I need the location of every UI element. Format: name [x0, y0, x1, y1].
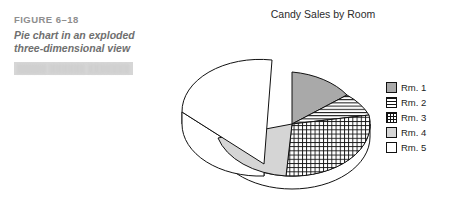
legend-item-rm-3[interactable]: Rm. 3: [386, 110, 426, 125]
chart-legend: Rm. 1 Rm. 2 Rm. 3 Rm. 4 Rm. 5: [386, 80, 426, 155]
figure-caption-text: Pie chart in an exploded three-dimension…: [14, 29, 142, 55]
figure-page: FIGURE 6–18 Pie chart in an exploded thr…: [0, 0, 461, 219]
legend-label-rm-3: Rm. 3: [401, 112, 426, 123]
legend-label-rm-2: Rm. 2: [401, 97, 426, 108]
legend-swatch-horizontal-lines-icon: [386, 97, 397, 108]
legend-swatch-solid-gray-icon: [386, 82, 397, 93]
legend-label-rm-5: Rm. 5: [401, 142, 426, 153]
legend-item-rm-1[interactable]: Rm. 1: [386, 80, 426, 95]
pie-chart-area: Candy Sales by Room: [176, 0, 461, 219]
redacted-text: █████ ██████ ███████: [14, 62, 133, 75]
legend-item-rm-4[interactable]: Rm. 4: [386, 125, 426, 140]
figure-number: FIGURE 6–18: [14, 14, 154, 26]
legend-swatch-white-icon: [386, 142, 397, 153]
legend-item-rm-5[interactable]: Rm. 5: [386, 140, 426, 155]
legend-label-rm-4: Rm. 4: [401, 127, 426, 138]
legend-label-rm-1: Rm. 1: [401, 82, 426, 93]
pie-slice-rm-3[interactable]: [286, 115, 370, 176]
legend-swatch-light-gray-icon: [386, 127, 397, 138]
redacted-text-bar: █████ ██████ ███████: [14, 62, 133, 75]
figure-caption-block: FIGURE 6–18 Pie chart in an exploded thr…: [14, 14, 154, 55]
legend-swatch-crosshatch-grid-icon: [386, 112, 397, 123]
legend-item-rm-2[interactable]: Rm. 2: [386, 95, 426, 110]
